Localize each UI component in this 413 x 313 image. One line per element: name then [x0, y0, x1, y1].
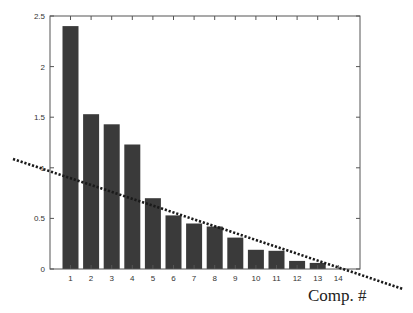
y-tick-label: 1.5	[34, 113, 46, 122]
x-axis-label: Comp. #	[308, 286, 367, 305]
x-tick-label: 6	[171, 274, 176, 283]
x-tick-label: 11	[272, 274, 281, 283]
x-tick-label: 3	[109, 274, 114, 283]
x-tick-label: 1	[68, 274, 73, 283]
x-tick-label: 4	[130, 274, 135, 283]
bar-9	[227, 238, 243, 269]
bar-3	[104, 124, 120, 269]
x-tick-label: 2	[89, 274, 94, 283]
bar-6	[166, 215, 182, 269]
x-tick-label: 7	[192, 274, 197, 283]
y-tick-label: 0.5	[34, 214, 46, 223]
bar-1	[63, 26, 79, 269]
bar-2	[83, 114, 99, 269]
x-tick-label: 10	[251, 274, 260, 283]
x-tick-label: 13	[313, 274, 322, 283]
y-tick-label: 0	[41, 265, 46, 274]
bar-8	[207, 227, 223, 270]
y-tick-label: 2	[41, 63, 46, 72]
scree-bar-chart: 00.511.522.5 1234567891011121314 Comp. #	[0, 0, 413, 313]
x-tick-label: 5	[151, 274, 156, 283]
x-tick-label: 14	[334, 274, 343, 283]
bar-7	[186, 224, 202, 270]
bars-group	[63, 26, 326, 269]
x-tick-label: 12	[293, 274, 302, 283]
x-tick-label: 8	[212, 274, 217, 283]
y-tick-label: 2.5	[34, 12, 46, 21]
bar-4	[124, 145, 140, 270]
x-tick-label: 9	[233, 274, 238, 283]
